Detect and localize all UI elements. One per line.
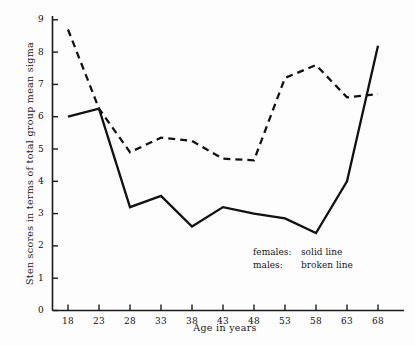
x-tick-label: 68 [366,316,390,326]
x-tick-label: 18 [56,316,80,326]
x-axis-ticks [68,305,378,311]
series-line-males [68,29,378,160]
y-axis-ticks [53,20,59,311]
legend-entry-females: females:solid line [253,246,353,259]
x-tick-label: 28 [118,316,142,326]
legend-entry-males: males:broken line [253,259,353,272]
x-tick-label: 63 [335,316,359,326]
legend: females:solid line males:broken line [253,246,353,272]
plot-area [0,0,415,345]
legend-desc-females: solid line [301,246,342,259]
y-tick-label: 9 [24,14,44,24]
x-axis-title: Age in years [155,322,295,333]
legend-key-males: males: [253,259,301,272]
legend-key-females: females: [253,246,301,259]
series-line-females [68,46,378,233]
legend-desc-males: broken line [301,259,353,272]
x-tick-label: 23 [87,316,111,326]
chart-figure: 0 1 2 3 4 5 6 7 8 9 18 23 28 33 38 43 48… [0,0,415,345]
x-tick-label: 58 [304,316,328,326]
y-tick-label: 0 [24,305,44,315]
y-axis-title: Sten scores in terms of total group mean… [24,39,35,289]
